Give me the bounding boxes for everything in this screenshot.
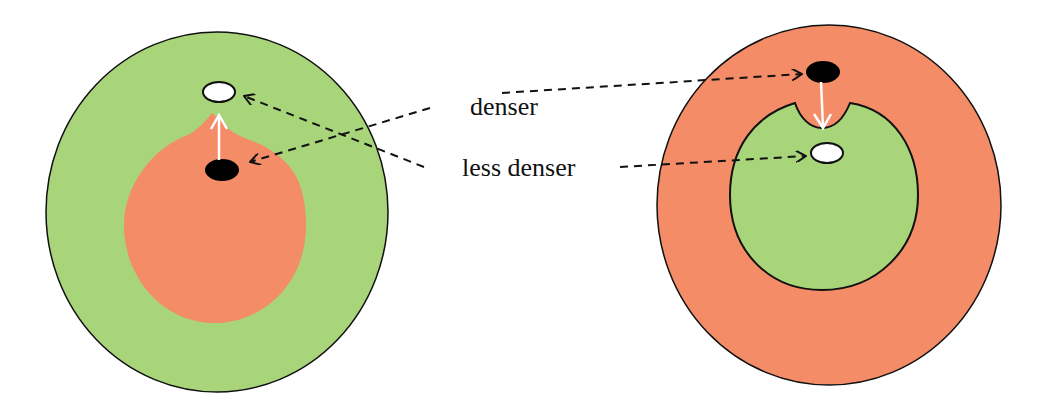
density-diagram <box>0 0 1043 415</box>
label-less-denser: less denser <box>462 155 575 181</box>
right-inner-green-region <box>730 103 918 290</box>
right-light-blob <box>811 143 843 163</box>
left-figure <box>46 32 388 392</box>
right-dense-blob <box>806 61 840 83</box>
left-dense-blob <box>205 159 239 181</box>
right-figure <box>657 25 1001 385</box>
label-denser: denser <box>470 94 538 120</box>
left-light-blob <box>203 82 235 102</box>
